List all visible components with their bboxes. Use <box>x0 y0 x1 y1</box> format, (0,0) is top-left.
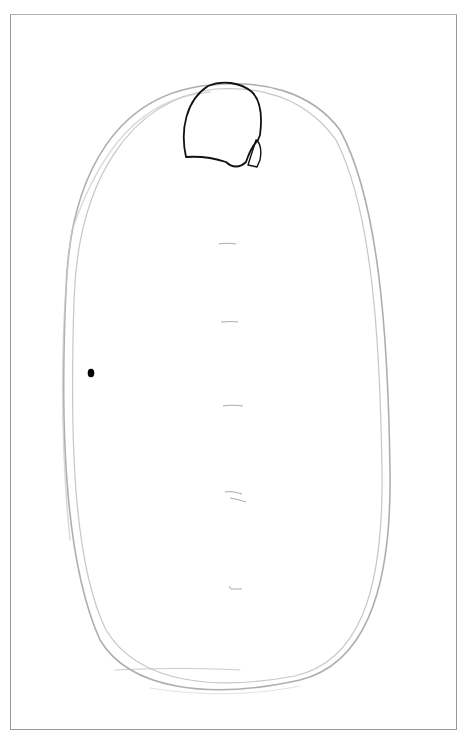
dot-marker <box>88 369 95 378</box>
table-outline <box>63 84 390 694</box>
head-shape <box>184 83 261 167</box>
mark-5 <box>229 586 242 589</box>
center-marks <box>219 243 246 589</box>
mark-1 <box>219 243 236 244</box>
mark-4 <box>225 492 246 502</box>
mark-3 <box>223 405 243 406</box>
sketch-canvas <box>0 0 470 744</box>
